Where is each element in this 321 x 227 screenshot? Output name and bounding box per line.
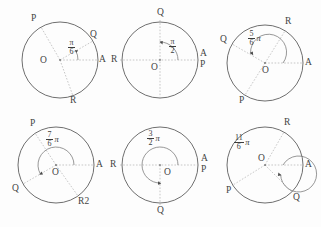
center-label-O: O [52, 168, 59, 178]
angle-denominator: 6 [236, 143, 242, 151]
point-label-Q: Q [157, 8, 164, 18]
center-label-O: O [262, 66, 269, 76]
point-label-R: R [70, 96, 77, 106]
panel-1-drawing [0, 0, 107, 114]
angle-denominator: 6 [47, 140, 53, 148]
angle-label-7pi-over-6: 7 6 π [46, 131, 59, 148]
angle-numerator: 11 [234, 134, 244, 142]
center-label-O: O [151, 63, 158, 73]
trig-circle-figure: P Q R A O π 6 Q R A P O π [0, 0, 321, 227]
angle-numerator: π [68, 39, 74, 47]
point-label-P: P [30, 119, 35, 129]
radius-to-R [56, 165, 78, 196]
angle-denominator: 6 [69, 48, 75, 56]
point-label-Q: Q [90, 30, 97, 40]
radius-to-R [60, 60, 73, 96]
center-label-O: O [164, 168, 171, 178]
panel-6-drawing [214, 113, 321, 227]
angle-denominator: 6 [249, 39, 255, 47]
point-label-R: R [285, 17, 292, 27]
center-label-O: O [40, 56, 47, 66]
point-label-P: P [31, 14, 36, 24]
point-label-R: R [111, 55, 118, 65]
radius-to-Q [265, 165, 292, 192]
angle-denominator: 2 [170, 47, 176, 55]
angle-numerator: π [169, 38, 175, 46]
angle-label-3pi-over-2: 3 2 π [147, 130, 160, 147]
angle-label-5pi-over-6: 5 6 π [248, 30, 261, 47]
point-label-Q: Q [12, 184, 19, 194]
point-label-A: A [201, 154, 208, 164]
point-label-A: A [99, 55, 106, 65]
center-dot [55, 164, 57, 166]
center-dot [264, 164, 266, 166]
point-label-P: P [239, 96, 244, 106]
radius-to-P [233, 165, 265, 185]
point-label-A: A [200, 49, 207, 59]
point-label-Q: Q [157, 206, 164, 216]
pi-symbol: π [257, 34, 261, 43]
point-label-P: P [201, 165, 206, 175]
angle-numerator: 7 [47, 131, 53, 139]
point-label-R: R [284, 118, 291, 128]
radius-to-R [265, 31, 285, 63]
angle-numerator: 3 [148, 130, 154, 138]
radius-to-R [265, 132, 284, 165]
pi-symbol: π [55, 135, 59, 144]
center-dot [264, 62, 266, 64]
center-dot [59, 59, 61, 61]
panel-2: Q R A P O π 2 [107, 0, 214, 114]
arc-arrowhead [158, 181, 161, 185]
point-label-R: R [110, 160, 117, 170]
angle-numerator: 5 [249, 30, 255, 38]
point-label-R: R2 [78, 197, 90, 207]
pi-symbol: π [156, 134, 160, 143]
point-label-A: A [305, 160, 312, 170]
center-dot [159, 164, 161, 166]
angle-label-pi-over-6: π 6 [68, 39, 75, 56]
panel-6: R P Q A O 11 6 π [214, 113, 321, 227]
panel-3: R Q P A O 5 6 π [214, 0, 321, 114]
angle-label-pi-over-2: π 2 [169, 38, 176, 55]
panel-1: P Q R A O π 6 [0, 0, 107, 114]
panel-5: R A P Q O 3 2 π [107, 113, 214, 227]
angle-label-11pi-over-6: 11 6 π [234, 134, 249, 151]
pi-symbol: π [245, 138, 249, 147]
point-label-P: P [200, 60, 205, 70]
angle-denominator: 2 [148, 139, 154, 147]
point-label-A: A [305, 58, 312, 68]
point-label-P: P [226, 186, 231, 196]
point-label-Q: Q [293, 193, 300, 203]
panel-4: P Q R2 A O 7 6 π [0, 113, 107, 227]
point-label-Q: Q [220, 35, 227, 45]
point-label-A: A [96, 160, 103, 170]
center-label-O: O [258, 154, 265, 164]
center-dot [159, 59, 161, 61]
